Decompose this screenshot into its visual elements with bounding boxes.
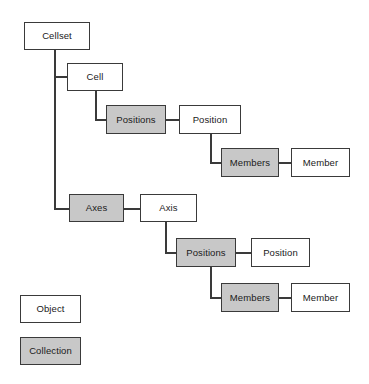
connector-pos2-to-position2 xyxy=(236,252,252,254)
connector-axes-to-axis xyxy=(124,208,141,210)
connector-trunk-to-axes xyxy=(54,208,70,210)
node-position2[interactable]: Position xyxy=(251,238,310,267)
node-cellset-label: Cellset xyxy=(42,31,72,41)
node-cell-label: Cell xyxy=(87,72,104,82)
connector-position1-drop xyxy=(210,134,212,163)
node-member2-label: Member xyxy=(303,293,338,303)
legend-item-legend-object[interactable]: Object xyxy=(20,295,81,323)
node-members2-label: Members xyxy=(230,293,270,303)
connector-pos1-to-position1 xyxy=(166,119,180,121)
node-position2-label: Position xyxy=(263,248,298,258)
node-member1-label: Member xyxy=(303,158,338,168)
legend-item-legend-object-label: Object xyxy=(36,304,64,314)
node-axes-label: Axes xyxy=(86,203,108,213)
node-position1-label: Position xyxy=(193,115,228,125)
node-member2[interactable]: Member xyxy=(291,283,350,312)
legend-item-legend-collection-label: Collection xyxy=(29,346,72,356)
connector-axis-drop xyxy=(165,222,167,253)
node-axis[interactable]: Axis xyxy=(140,194,197,222)
node-positions1[interactable]: Positions xyxy=(106,105,166,134)
node-axis-label: Axis xyxy=(159,203,177,213)
node-members2[interactable]: Members xyxy=(221,283,279,312)
connector-cellset-trunk xyxy=(54,50,56,209)
node-axes[interactable]: Axes xyxy=(69,194,124,222)
connector-positions2-drop xyxy=(210,267,212,298)
legend-item-legend-collection[interactable]: Collection xyxy=(20,337,81,365)
connector-cell-drop xyxy=(95,91,97,120)
node-members1[interactable]: Members xyxy=(221,148,279,177)
node-member1[interactable]: Member xyxy=(291,148,350,177)
node-positions2-label: Positions xyxy=(186,248,225,258)
node-members1-label: Members xyxy=(230,158,270,168)
diagram-canvas: CellsetCellPositionsPositionMembersMembe… xyxy=(0,0,369,384)
connector-trunk-to-cell xyxy=(54,76,68,78)
node-cellset[interactable]: Cellset xyxy=(24,22,90,50)
node-positions1-label: Positions xyxy=(116,115,155,125)
node-positions2[interactable]: Positions xyxy=(176,238,236,267)
node-cell[interactable]: Cell xyxy=(67,63,123,91)
node-position1[interactable]: Position xyxy=(179,105,241,134)
